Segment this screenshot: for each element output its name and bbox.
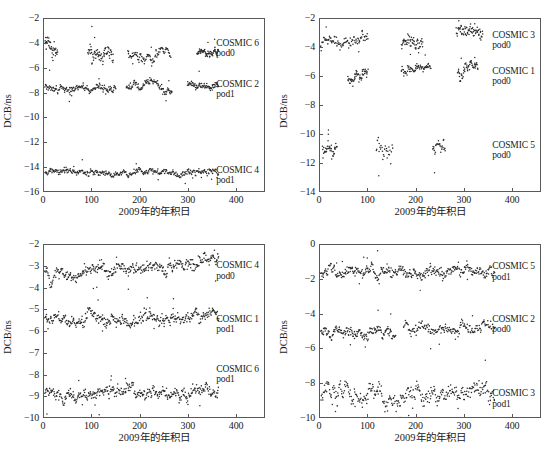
series-points (44, 245, 219, 290)
y-tick-label: −6 (29, 63, 39, 73)
x-tick-mark (188, 188, 189, 192)
y-tick-mark (43, 167, 47, 168)
x-tick-label: 100 (84, 194, 98, 205)
series-pod: pod1 (216, 324, 259, 335)
x-tick-label: 300 (181, 194, 195, 205)
y-tick-mark (319, 76, 323, 77)
x-tick-label: 0 (41, 194, 46, 205)
y-tick-label: −6 (305, 71, 315, 81)
y-tick-label: −8 (29, 370, 39, 380)
x-axis-title-top-right: 2009年的年积日 (319, 206, 541, 218)
x-tick-mark (367, 188, 368, 192)
y-tick-label: 0 (310, 239, 315, 249)
series-points (44, 297, 220, 332)
panel-bottom-right: 0−2−4−6−8−10 DCB/ns 2009年的年积日 0100200300… (276, 226, 551, 452)
x-axis-title-top-left: 2009年的年积日 (43, 206, 265, 218)
series-legend-label: COSMIC 3pod0 (492, 30, 535, 51)
x-tick-label: 200 (132, 194, 146, 205)
x-tick-mark (416, 414, 417, 418)
series-points (347, 54, 478, 87)
series-legend-label: COSMIC 1pod0 (492, 66, 535, 87)
y-tick-label: −2 (29, 13, 39, 23)
y-tick-label: −8 (305, 100, 315, 110)
series-legend-label: COSMIC 3pod1 (492, 388, 535, 409)
series-pod: pod0 (492, 76, 535, 87)
panel-top-right: −2−4−6−8−10−12−14 DCB/ns 2009年的年积日 01002… (276, 0, 551, 226)
series-points (320, 359, 495, 417)
x-axis-title-bottom-right: 2009年的年积日 (319, 432, 541, 444)
x-tick-mark (140, 414, 141, 418)
y-tick-label: −4 (305, 42, 315, 52)
y-tick-mark (319, 47, 323, 48)
y-tick-mark (319, 383, 323, 384)
series-legend-label: COSMIC 4pod0 (216, 260, 259, 281)
y-tick-mark (43, 117, 47, 118)
y-tick-mark (43, 43, 47, 44)
y-tick-label: −8 (305, 378, 315, 388)
y-tick-label: −10 (300, 129, 315, 139)
series-pod: pod0 (492, 150, 535, 161)
series-legend-label: COSMIC 2pod0 (492, 314, 535, 335)
series-legend-label: COSMIC 6pod0 (216, 38, 259, 59)
y-tick-mark (319, 105, 323, 106)
y-tick-label: −10 (300, 413, 315, 423)
y-tick-label: −9 (29, 391, 39, 401)
y-tick-mark (43, 288, 47, 289)
y-tick-label: −16 (24, 187, 39, 197)
y-tick-label: −3 (29, 261, 39, 271)
x-tick-mark (367, 414, 368, 418)
x-tick-mark (464, 414, 465, 418)
series-pod: pod1 (492, 399, 535, 410)
x-tick-label: 300 (457, 420, 471, 431)
x-tick-label: 100 (360, 194, 374, 205)
series-legend-label: COSMIC 6pod1 (216, 364, 259, 385)
series-pod: pod0 (492, 40, 535, 51)
y-axis-title-bottom-left: DCB/ns (2, 307, 14, 367)
series-legend-label: COSMIC 5pod0 (492, 140, 535, 161)
series-points (320, 20, 484, 66)
series-name: COSMIC 5 (492, 261, 535, 272)
series-name: COSMIC 2 (216, 79, 259, 90)
x-tick-label: 100 (360, 420, 374, 431)
series-points (44, 70, 219, 102)
x-tick-mark (140, 188, 141, 192)
y-tick-label: −14 (300, 187, 315, 197)
y-tick-label: −10 (24, 112, 39, 122)
y-tick-label: −2 (29, 239, 39, 249)
y-tick-label: −6 (305, 343, 315, 353)
y-tick-mark (43, 396, 47, 397)
series-pod: pod0 (492, 324, 535, 335)
y-tick-mark (319, 279, 323, 280)
y-axis-title-top-left: DCB/ns (2, 81, 14, 141)
series-points (320, 309, 496, 349)
y-tick-label: −2 (305, 13, 315, 23)
series-name: COSMIC 3 (492, 388, 535, 399)
y-tick-mark (43, 309, 47, 310)
x-tick-label: 400 (229, 420, 243, 431)
series-pod: pod0 (216, 271, 259, 282)
series-pod: pod1 (216, 89, 259, 100)
y-tick-mark (319, 314, 323, 315)
series-name: COSMIC 1 (216, 314, 259, 325)
series-name: COSMIC 2 (492, 314, 535, 325)
y-tick-label: −10 (24, 413, 39, 423)
x-tick-label: 200 (408, 420, 422, 431)
x-tick-mark (512, 414, 513, 418)
series-points (322, 129, 446, 176)
x-tick-label: 300 (181, 420, 195, 431)
x-tick-mark (236, 414, 237, 418)
dcb-timeseries-figure: −2−4−6−8−10−12−14−16 DCB/ns 2009年的年积日 01… (0, 0, 551, 452)
series-points (44, 26, 219, 71)
x-tick-mark (416, 188, 417, 192)
x-tick-label: 0 (41, 420, 46, 431)
series-name: COSMIC 5 (492, 140, 535, 151)
y-tick-label: −4 (29, 38, 39, 48)
y-tick-mark (43, 142, 47, 143)
y-tick-mark (43, 266, 47, 267)
x-tick-label: 400 (505, 420, 519, 431)
x-tick-label: 100 (84, 420, 98, 431)
y-tick-label: −2 (305, 274, 315, 284)
series-name: COSMIC 3 (492, 30, 535, 41)
y-tick-label: −8 (29, 88, 39, 98)
series-pod: pod1 (216, 175, 259, 186)
